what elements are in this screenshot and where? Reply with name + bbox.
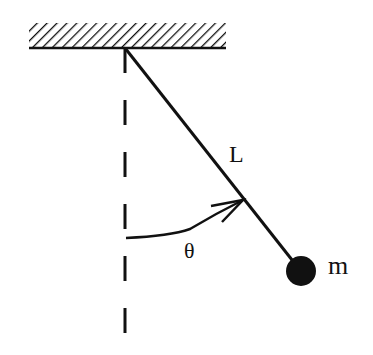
length-label: L [229, 141, 244, 168]
mass-label: m [328, 251, 348, 281]
angle-arc-arrow [126, 200, 243, 238]
pendulum-bob [286, 256, 316, 286]
angle-label: θ [184, 238, 195, 264]
ceiling-support [29, 23, 226, 48]
pendulum-drawing [0, 0, 373, 355]
pendulum-diagram: L θ m [0, 0, 373, 355]
pendulum-rod [125, 48, 296, 265]
